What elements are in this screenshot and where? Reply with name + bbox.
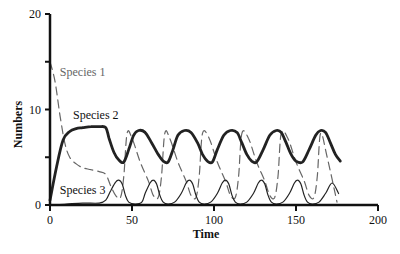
series-line-species-1 [50,62,337,202]
x-axis-title: Time [193,227,220,241]
y-tick-label: 10 [29,103,41,117]
y-axis-title: Numbers [11,101,25,149]
y-tick-label: 0 [35,198,41,212]
x-tick-label: 150 [287,213,305,227]
series-label-species-1: Species 1 [60,65,106,79]
x-tick-label: 50 [126,213,138,227]
series-label-species-2: Species 2 [73,108,119,122]
y-tick-label: 20 [29,7,41,21]
population-chart: 01020050100150200 TimeNumbersSpecies 1Sp… [0,0,400,254]
x-tick-label: 200 [369,213,387,227]
x-tick-label: 0 [47,213,53,227]
x-tick-label: 100 [205,213,223,227]
series-label-species-3: Species 3 [60,183,106,197]
